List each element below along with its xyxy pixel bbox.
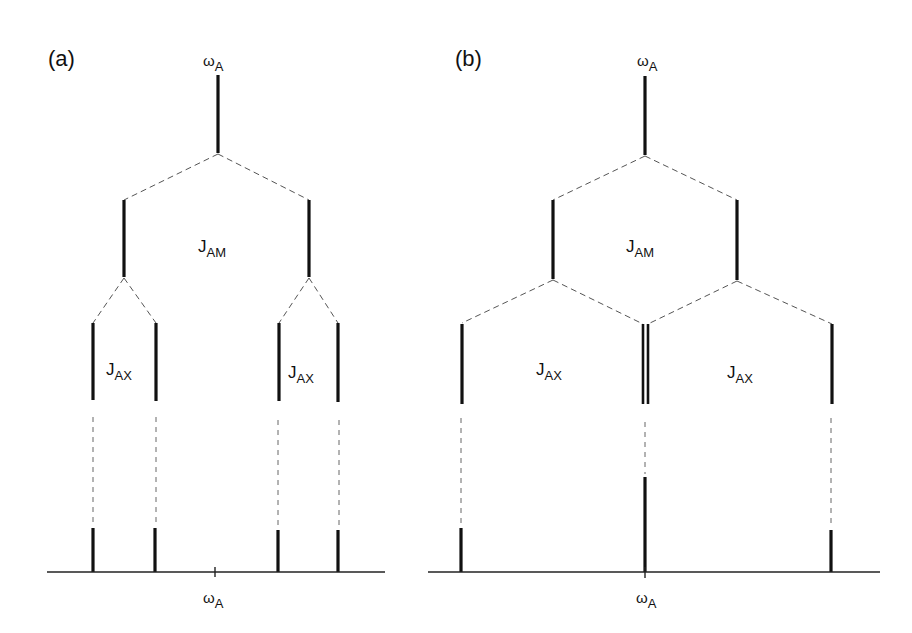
panel-b-split-dash	[553, 280, 643, 324]
panel-a-jax-left-label: JAX	[106, 360, 132, 383]
panel-a-split-dash	[93, 278, 124, 323]
panel-a-jax-right-label: JAX	[288, 363, 314, 386]
panel-b-jam-label: JAM	[626, 237, 654, 260]
panel-b: (b) ωA JAM JAX JAX ωA	[428, 46, 880, 611]
panel-a-split-dash	[124, 154, 218, 200]
panel-b-split-dash	[645, 156, 737, 200]
panel-a-split-dash	[279, 278, 309, 323]
panel-a-axis-omega: ωA	[203, 589, 224, 611]
panel-b-axis-omega: ωA	[636, 589, 657, 611]
splitting-tree-figure: (a) ωA JAM JAX JAX	[0, 0, 912, 633]
panel-a-split-dash	[309, 278, 338, 323]
panel-a-split-dash	[218, 154, 309, 200]
panel-a-jam-label: JAM	[198, 237, 226, 260]
panel-b-jax-left-label: JAX	[536, 360, 562, 383]
panel-b-split-dash	[648, 281, 737, 324]
panel-a-label: (a)	[48, 46, 75, 71]
panel-a-split-dash	[124, 278, 156, 323]
panel-b-split-dash	[553, 156, 645, 200]
panel-b-jax-right-label: JAX	[727, 363, 753, 386]
panel-b-label: (b)	[455, 46, 482, 71]
panel-b-split-dash	[737, 281, 832, 324]
panel-a-top-omega: ωA	[203, 52, 224, 74]
panel-b-split-dash	[462, 280, 553, 323]
panel-a: (a) ωA JAM JAX JAX	[47, 46, 385, 611]
panel-b-top-omega: ωA	[637, 52, 658, 74]
